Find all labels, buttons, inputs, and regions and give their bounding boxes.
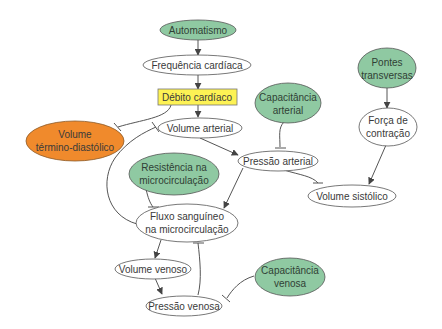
- diagram-canvas: Automatismo Frequência cardíaca Débito c…: [0, 0, 442, 329]
- node-pressao-venosa: Pressão venosa: [146, 296, 222, 316]
- node-frequencia-cardiaca: Frequência cardíaca: [143, 55, 251, 75]
- label-resistencia-line2: microcirculação: [139, 175, 209, 186]
- node-volume-arterial: Volume arterial: [158, 118, 242, 138]
- edge-pressao-venosa-fluxo: [198, 243, 200, 295]
- edge-capacitancia-venosa-pressao-venosa: [227, 276, 254, 298]
- node-volume-sistolico: Volume sistólico: [308, 185, 396, 207]
- label-automatismo: Automatismo: [169, 25, 228, 36]
- label-forca-line2: contração: [366, 128, 410, 139]
- node-volume-termino-diastolico: Volume término-diastólico: [26, 121, 124, 161]
- label-pontes-line2: transversas: [361, 70, 413, 81]
- label-capacitancia-venosa-line2: venosa: [274, 278, 307, 289]
- edge-pressao-arterial-fluxo: [224, 168, 243, 208]
- label-forca-line1: Força de: [368, 115, 408, 126]
- node-capacitancia-arterial: Capacitância arterial: [255, 83, 321, 123]
- node-pontes-transversas: Pontes transversas: [358, 48, 416, 88]
- node-fluxo-sanguineo: Fluxo sanguíneo na microcirculação: [136, 204, 238, 242]
- edge-forca-volume-sistolico: [369, 145, 386, 184]
- edge-volume-arterial-pressao-arterial: [200, 138, 238, 155]
- label-capacitancia-venosa-line1: Capacitância: [261, 265, 319, 276]
- label-pontes-line1: Pontes: [371, 57, 402, 68]
- edge-fluxo-volume-venoso: [155, 240, 161, 258]
- label-volume-venoso: Volume venoso: [119, 264, 188, 275]
- edge-pressao-arterial-volume-sistolico: [284, 170, 318, 183]
- label-pressao-venosa: Pressão venosa: [148, 301, 220, 312]
- label-volume-termino-line1: Volume: [58, 129, 92, 140]
- label-debito-cardiaco: Débito cardíaco: [162, 92, 232, 103]
- edge-volume-venoso-pressao-venosa: [155, 278, 162, 294]
- label-fluxo-line2: na microcirculação: [145, 224, 229, 235]
- node-automatismo: Automatismo: [160, 20, 236, 40]
- label-volume-arterial: Volume arterial: [167, 123, 234, 134]
- label-fluxo-line1: Fluxo sanguíneo: [150, 211, 224, 222]
- node-pressao-arterial: Pressão arterial: [238, 151, 318, 171]
- label-volume-sistolico: Volume sistólico: [316, 191, 388, 202]
- node-debito-cardiaco: Débito cardíaco: [158, 89, 237, 105]
- node-capacitancia-venosa: Capacitância venosa: [255, 258, 325, 296]
- label-frequencia-cardiaca: Frequência cardíaca: [151, 60, 243, 71]
- edge-capacitancia-arterial-pressao-arterial: [280, 122, 284, 147]
- label-pressao-arterial: Pressão arterial: [243, 156, 313, 167]
- node-forca-de-contracao: Força de contração: [359, 108, 417, 146]
- label-capacitancia-arterial-line2: arterial: [273, 105, 304, 116]
- label-resistencia-line1: Resistência na: [141, 162, 207, 173]
- label-volume-termino-line2: término-diastólico: [36, 142, 115, 153]
- node-resistencia-microcirculacao: Resistência na microcirculação: [129, 153, 219, 195]
- label-capacitancia-arterial-line1: Capacitância: [259, 92, 317, 103]
- node-volume-venoso: Volume venoso: [115, 259, 191, 279]
